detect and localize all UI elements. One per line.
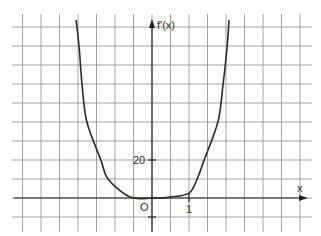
grid (12, 14, 312, 232)
x-axis-label: x (297, 182, 303, 194)
origin-label: O (140, 201, 149, 213)
y-tick-label-20: 20 (133, 154, 145, 166)
x-tick-label-1: 1 (186, 203, 192, 215)
derivative-graph: f'(x) x O 1 20 (0, 0, 321, 236)
y-axis-arrow-icon (149, 19, 155, 28)
x-axis-arrow-icon (299, 195, 308, 201)
y-axis-label: f'(x) (157, 19, 175, 31)
